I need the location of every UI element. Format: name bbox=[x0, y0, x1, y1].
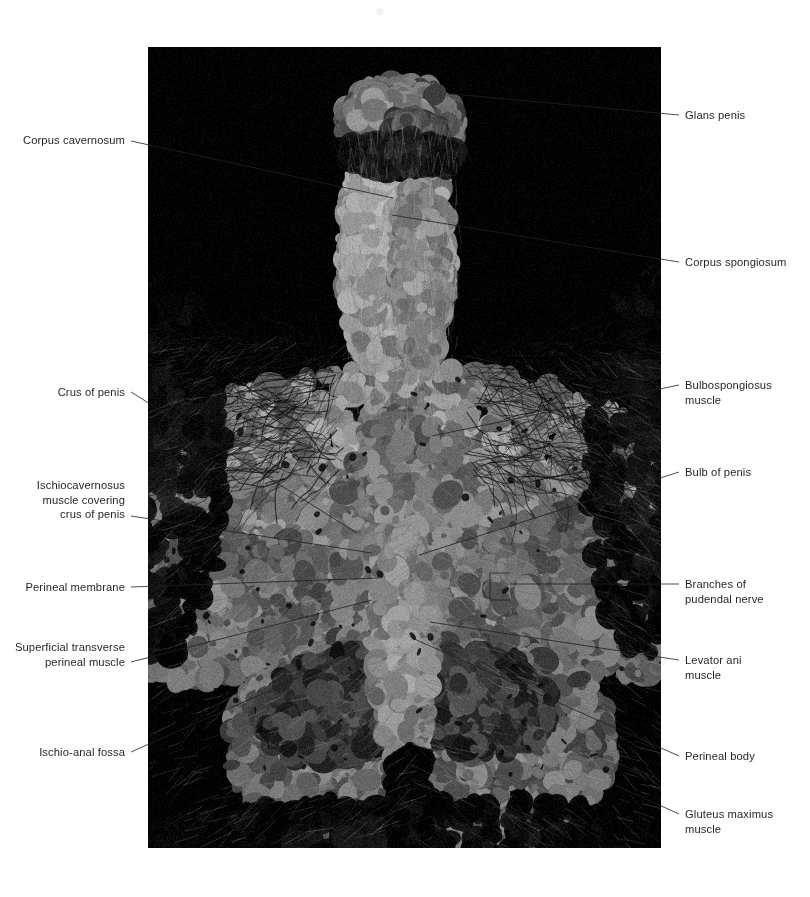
label-branches-of-pudendal-nerve: Branches of pudendal nerve bbox=[685, 577, 764, 606]
label-bulb-of-penis: Bulb of penis bbox=[685, 465, 751, 480]
dissection-photograph-canvas bbox=[148, 47, 661, 848]
label-superficial-transverse-perineal-muscle: Superficial transverse perineal muscle bbox=[15, 640, 125, 669]
label-bulbospongiosus-muscle: Bulbospongiosus muscle bbox=[685, 378, 772, 407]
label-gluteus-maximus-muscle: Gluteus maximus muscle bbox=[685, 807, 773, 836]
dissection-photograph bbox=[148, 47, 661, 848]
label-perineal-body: Perineal body bbox=[685, 749, 755, 764]
label-ischiocavernosus-muscle: Ischiocavernosus muscle covering crus of… bbox=[37, 478, 125, 522]
label-corpus-cavernosum: Corpus cavernosum bbox=[23, 133, 125, 148]
label-levator-ani-muscle: Levator ani muscle bbox=[685, 653, 742, 682]
label-ischio-anal-fossa: Ischio-anal fossa bbox=[39, 745, 125, 760]
label-crus-of-penis: Crus of penis bbox=[58, 385, 125, 400]
label-corpus-spongiosum: Corpus spongiosum bbox=[685, 255, 786, 270]
registration-speck bbox=[376, 8, 383, 15]
label-perineal-membrane: Perineal membrane bbox=[25, 580, 125, 595]
figure-page: Corpus cavernosumCrus of penisIschiocave… bbox=[0, 0, 810, 897]
label-glans-penis: Glans penis bbox=[685, 108, 745, 123]
